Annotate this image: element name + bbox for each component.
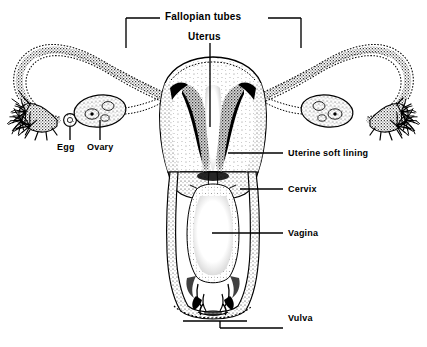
label-ovary: Ovary — [87, 142, 114, 152]
diagram-canvas: Fallopian tubes Uterus Egg Ovary Uterine… — [0, 0, 427, 347]
label-uterus: Uterus — [188, 31, 221, 42]
label-fallopian-tubes: Fallopian tubes — [165, 11, 241, 22]
label-vulva: Vulva — [288, 313, 313, 323]
label-vagina: Vagina — [288, 228, 318, 238]
label-egg: Egg — [57, 142, 75, 152]
label-cervix: Cervix — [288, 184, 317, 194]
anatomical-illustration — [0, 0, 427, 347]
label-uterine-soft-lining: Uterine soft lining — [288, 148, 368, 158]
